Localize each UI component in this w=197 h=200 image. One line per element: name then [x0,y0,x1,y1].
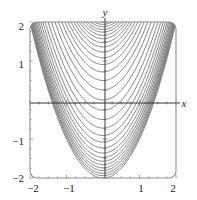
x-tick-label: 1 [138,182,144,194]
y-tick-label: 1 [19,58,25,70]
y-tick-label: 2 [19,20,25,32]
contour-curve [30,0,176,128]
x-tick-label: −1 [63,182,75,194]
y-tick-label: −1 [12,135,24,147]
x-tick-label: −2 [27,182,39,194]
contour-curves [30,0,176,178]
contour-plot-figure: −2−11221−1−2 x y [0,0,197,200]
contour-curve [30,5,176,161]
y-tick-label: −2 [12,172,24,184]
contour-curve [30,0,176,135]
y-axis-label: y [102,6,108,18]
x-tick-label: 2 [170,182,176,194]
contour-plot-canvas: −2−11221−1−2 x y [0,0,197,200]
x-axis-label: x [181,97,187,109]
